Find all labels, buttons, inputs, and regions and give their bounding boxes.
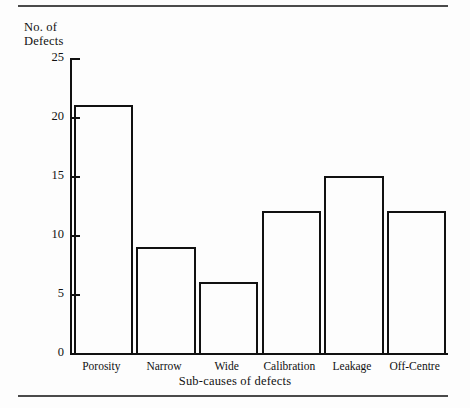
bar-series <box>72 58 448 353</box>
y-tick-mark <box>72 117 80 119</box>
y-tick-label: 20 <box>52 109 65 123</box>
y-tick-0: 0 <box>70 353 80 355</box>
bar-wide <box>199 282 259 353</box>
y-tick-20: 20 <box>70 117 80 119</box>
bar-porosity <box>74 105 134 353</box>
x-label-wide: Wide <box>195 358 258 374</box>
bar-leakage <box>324 176 384 353</box>
bar-narrow <box>136 247 196 353</box>
y-tick-25: 25 <box>70 58 80 60</box>
bottom-divider-rule <box>18 395 448 397</box>
top-divider-rule <box>18 5 448 7</box>
y-axis-title-line-2: Defects <box>24 35 64 49</box>
x-axis-title: Sub-causes of defects <box>0 374 470 389</box>
y-tick-label: 10 <box>52 227 65 241</box>
y-tick-15: 15 <box>70 176 80 178</box>
y-tick-label: 5 <box>58 286 64 300</box>
x-label-off-centre: Off-Centre <box>383 358 446 374</box>
x-label-narrow: Narrow <box>133 358 196 374</box>
x-axis-line <box>70 353 448 355</box>
y-tick-mark <box>72 58 80 60</box>
x-label-porosity: Porosity <box>70 358 133 374</box>
bar-calibration <box>262 211 322 353</box>
chart-figure: No. of Defects 0510152025 PorosityNarrow… <box>0 0 470 408</box>
y-tick-label: 0 <box>58 345 64 359</box>
y-tick-mark <box>72 294 80 296</box>
y-tick-5: 5 <box>70 294 80 296</box>
plot-area: 0510152025 <box>70 58 448 355</box>
bar-off-centre <box>387 211 447 353</box>
y-axis-title-line-1: No. of <box>24 21 64 35</box>
y-tick-label: 25 <box>52 50 65 64</box>
y-axis-title: No. of Defects <box>24 21 64 48</box>
y-tick-label: 15 <box>52 168 65 182</box>
y-tick-mark <box>72 353 80 355</box>
y-tick-mark <box>72 176 80 178</box>
x-label-leakage: Leakage <box>321 358 384 374</box>
y-tick-10: 10 <box>70 235 80 237</box>
x-label-calibration: Calibration <box>258 358 321 374</box>
y-tick-mark <box>72 235 80 237</box>
